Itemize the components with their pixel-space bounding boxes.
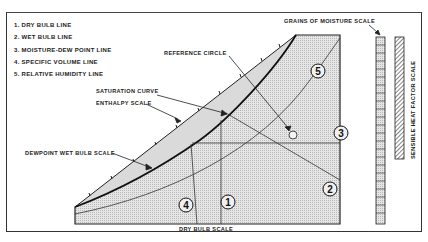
svg-text:1: 1 xyxy=(225,197,231,208)
marker-5: 5 xyxy=(311,64,325,78)
legend: 1. DRY BULB LINE 2. WET BULB LINE 3. MOI… xyxy=(14,19,111,80)
svg-text:4: 4 xyxy=(183,200,189,211)
saturation-curve-label: SATURATION CURVE xyxy=(96,88,158,94)
enthalpy-scale-label: ENTHALPY SCALE xyxy=(96,100,151,106)
legend-item: 2. WET BULB LINE xyxy=(14,31,111,43)
marker-2: 2 xyxy=(323,182,337,196)
reference-circle-label: REFERENCE CIRCLE xyxy=(164,50,226,56)
grains-of-moisture-label: GRAINS OF MOISTURE SCALE xyxy=(284,18,375,24)
reference-circle xyxy=(289,131,297,139)
marker-4: 4 xyxy=(179,198,193,212)
marker-1: 1 xyxy=(221,195,235,209)
legend-item: 3. MOISTURE-DEW POINT LINE xyxy=(14,44,111,56)
svg-text:5: 5 xyxy=(315,66,321,77)
legend-item: 1. DRY BULB LINE xyxy=(14,19,111,31)
legend-item: 4. SPECIFIC VOLUME LINE xyxy=(14,56,111,68)
legend-item: 5. RELATIVE HUMIDITY LINE xyxy=(14,68,111,80)
grains-of-moisture-scale xyxy=(376,37,385,224)
dry-bulb-scale-label: DRY BULB SCALE xyxy=(179,226,233,232)
svg-text:2: 2 xyxy=(327,184,333,195)
svg-text:3: 3 xyxy=(338,128,344,139)
sensible-heat-factor-label: SENSIBLE HEAT FACTOR SCALE xyxy=(410,61,416,159)
marker-3: 3 xyxy=(334,126,348,140)
sensible-heat-factor-scale xyxy=(395,37,404,159)
dewpoint-wet-bulb-scale-label: DEWPOINT WET BULB SCALE xyxy=(25,150,115,156)
